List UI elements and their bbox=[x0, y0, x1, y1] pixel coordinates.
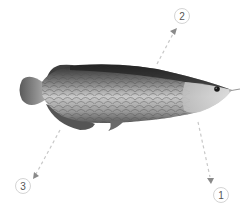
callout-1: 1 bbox=[198, 122, 229, 203]
callout-2: 2 bbox=[157, 9, 190, 65]
pelvic-fin bbox=[108, 121, 124, 131]
callout-label-2: 2 bbox=[179, 11, 185, 22]
leader-line-1 bbox=[198, 122, 210, 177]
callout-label-1: 1 bbox=[218, 190, 224, 201]
arrowhead-1-icon bbox=[207, 178, 214, 184]
callout-3: 3 bbox=[16, 130, 61, 194]
fish-diagram: 2 3 1 bbox=[0, 0, 249, 210]
leader-line-3 bbox=[36, 130, 60, 174]
arowana-fish bbox=[20, 60, 241, 131]
leader-line-2 bbox=[157, 32, 174, 64]
tail-fin bbox=[20, 77, 46, 105]
diagram-canvas: 2 3 1 bbox=[0, 0, 249, 210]
callout-label-3: 3 bbox=[20, 181, 26, 192]
fish-eye bbox=[214, 86, 220, 92]
fish-head bbox=[182, 82, 232, 113]
arrowhead-2-icon bbox=[170, 28, 177, 35]
